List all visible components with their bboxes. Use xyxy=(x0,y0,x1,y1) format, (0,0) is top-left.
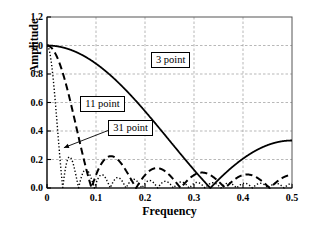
y-tick-label: 0.8 xyxy=(17,69,43,79)
y-tick-label: 0.2 xyxy=(17,155,43,165)
x-tick-label: 0.4 xyxy=(237,193,250,203)
x-tick-label: 0.1 xyxy=(90,193,103,203)
x-tick-label: 0.5 xyxy=(286,193,299,203)
x-tick-label: 0.2 xyxy=(139,193,152,203)
x-axis-label: Frequency xyxy=(47,205,292,217)
chart-figure: Amplitude Frequency 0.00.20.40.60.81.01.… xyxy=(0,0,309,226)
annotation-3-point: 3 point xyxy=(151,52,190,68)
annotation-arrow xyxy=(64,130,108,148)
y-tick-label: 1.0 xyxy=(17,41,43,51)
y-tick-label: 0.0 xyxy=(17,183,43,193)
annotation-31-point: 31 point xyxy=(108,120,153,136)
y-tick-label: 0.4 xyxy=(17,126,43,136)
x-tick-label: 0.3 xyxy=(188,193,201,203)
y-tick-label: 1.2 xyxy=(17,12,43,22)
annotation-11-point: 11 point xyxy=(80,96,124,112)
x-tick-label: 0 xyxy=(45,193,50,203)
y-tick-label: 0.6 xyxy=(17,98,43,108)
